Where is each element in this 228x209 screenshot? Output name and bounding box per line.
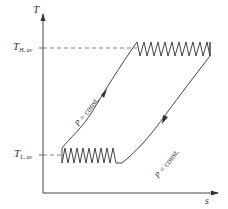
cooling-curve (122, 56, 210, 163)
x-axis-arrow-icon (211, 191, 219, 196)
cooling-direction-arrow-icon (162, 115, 168, 124)
bottom-zigzag (62, 148, 122, 163)
top-zigzag (137, 42, 210, 56)
y-axis (41, 13, 46, 193)
x-axis-label: s (205, 196, 209, 206)
y-axis-label: T (33, 4, 39, 15)
y-axis-arrow-icon (41, 13, 46, 21)
t-high-average-label: TH, av (13, 41, 32, 53)
t-low-average-label: TL, av (14, 148, 32, 160)
x-axis (43, 191, 219, 196)
diagram-canvas (0, 0, 228, 209)
ts-diagram: T s TH, av TL, av P = const. P = const. (0, 0, 228, 209)
heating-curve (62, 42, 137, 148)
